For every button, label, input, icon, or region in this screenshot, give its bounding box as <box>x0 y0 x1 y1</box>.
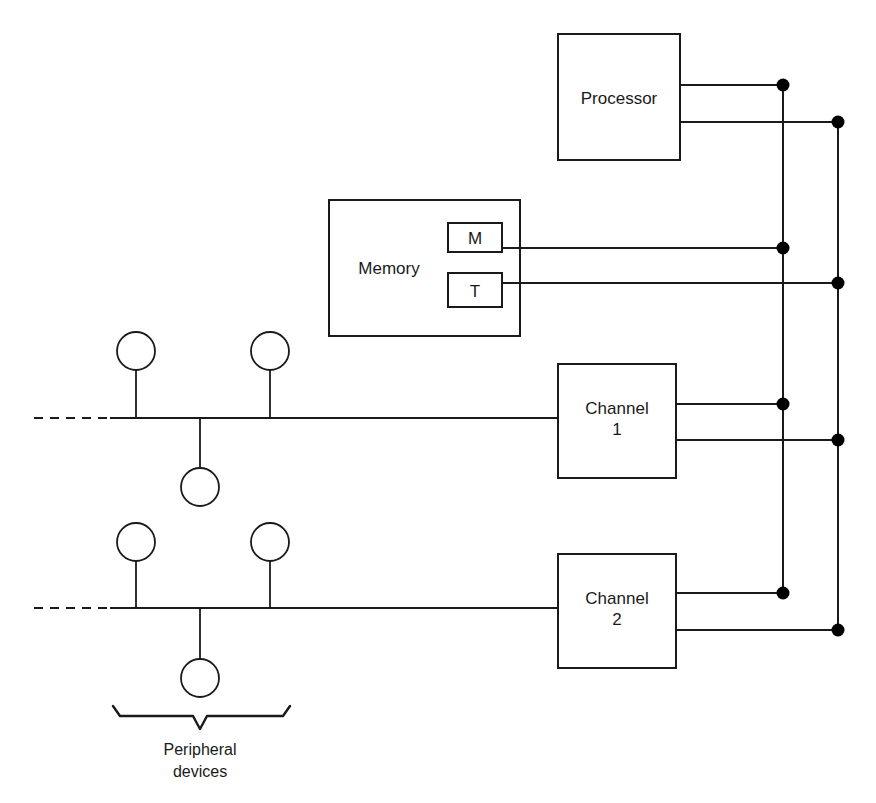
peripheral-group-2 <box>34 523 558 697</box>
peripheral-device-icon <box>251 523 289 561</box>
junction-dot <box>777 398 790 411</box>
block-label-channel1-number: 1 <box>612 420 621 439</box>
brace-label-line2: devices <box>173 763 227 780</box>
block-label-t: T <box>470 282 480 301</box>
junction-dot <box>832 624 845 637</box>
block-memory: Memory <box>329 200 520 336</box>
peripheral-device-icon <box>117 332 155 370</box>
junction-dot <box>832 277 845 290</box>
junction-dot <box>777 242 790 255</box>
peripheral-device-icon <box>117 523 155 561</box>
block-label-m: M <box>468 229 482 248</box>
junction-dot <box>777 79 790 92</box>
peripheral-devices-brace <box>113 706 290 729</box>
block-label-channel2-number: 2 <box>612 610 621 629</box>
block-channel-1: Channel 1 <box>558 364 676 478</box>
block-label-channel2: Channel <box>585 589 648 608</box>
junction-dot <box>832 434 845 447</box>
peripheral-group-1 <box>34 332 558 506</box>
block-label-memory: Memory <box>358 259 420 278</box>
junction-dot <box>777 587 790 600</box>
diagram-canvas: Processor Memory M T Channel 1 Channel 2 <box>0 0 876 803</box>
block-diagram-svg: Processor Memory M T Channel 1 Channel 2 <box>0 0 876 803</box>
block-label-processor: Processor <box>581 89 658 108</box>
block-memory-m: M <box>448 223 502 252</box>
brace-label-line1: Peripheral <box>164 741 237 758</box>
block-processor: Processor <box>558 34 680 160</box>
block-label-channel1: Channel <box>585 399 648 418</box>
peripheral-device-icon <box>181 468 219 506</box>
block-memory-t: T <box>448 273 502 307</box>
peripheral-device-icon <box>181 659 219 697</box>
peripheral-device-icon <box>251 332 289 370</box>
junction-dot <box>832 116 845 129</box>
block-channel-2: Channel 2 <box>558 554 676 668</box>
